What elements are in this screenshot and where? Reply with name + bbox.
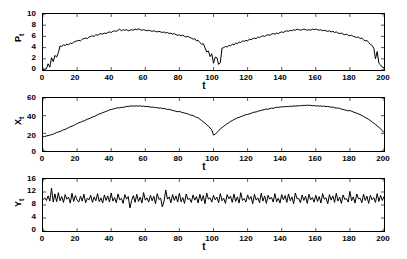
x-tick-xt-180: 180 — [340, 154, 358, 163]
y-tick-yt-16: 16 — [8, 174, 36, 183]
plot-area-xt — [42, 97, 385, 152]
x-tick-xt-60: 60 — [134, 154, 152, 163]
y-tick-pt-0: 0 — [8, 64, 36, 73]
y-tick-xt-60: 60 — [6, 93, 36, 102]
x-tick-pt-60: 60 — [134, 73, 152, 82]
y-tick-xt-20: 20 — [6, 131, 36, 140]
x-tick-xt-120: 120 — [237, 154, 255, 163]
plot-line-pt — [43, 14, 384, 70]
y-tick-pt-6: 6 — [8, 31, 36, 40]
plot-line-yt — [43, 179, 384, 231]
x-tick-pt-0: 0 — [33, 73, 51, 82]
x-axis-label-yt: t — [196, 241, 212, 252]
x-tick-xt-80: 80 — [169, 154, 187, 163]
y-tick-pt-8: 8 — [8, 20, 36, 29]
x-tick-xt-40: 40 — [100, 154, 118, 163]
x-tick-yt-180: 180 — [340, 234, 358, 243]
x-tick-yt-0: 0 — [33, 234, 51, 243]
x-tick-pt-20: 20 — [66, 73, 84, 82]
y-tick-xt-0: 0 — [6, 147, 36, 156]
y-tick-yt-4: 4 — [8, 212, 36, 221]
y-tick-yt-0: 0 — [8, 225, 36, 234]
x-tick-yt-40: 40 — [100, 234, 118, 243]
x-tick-pt-160: 160 — [306, 73, 324, 82]
y-tick-yt-12: 12 — [8, 186, 36, 195]
x-tick-pt-140: 140 — [271, 73, 289, 82]
plot-line-xt — [43, 98, 384, 151]
plot-area-yt — [42, 178, 385, 232]
x-tick-pt-120: 120 — [237, 73, 255, 82]
x-tick-yt-160: 160 — [306, 234, 324, 243]
y-tick-pt-10: 10 — [8, 9, 36, 18]
x-axis-label-xt: t — [196, 161, 212, 172]
x-tick-yt-200: 200 — [374, 234, 392, 243]
x-tick-yt-60: 60 — [134, 234, 152, 243]
y-tick-pt-2: 2 — [8, 53, 36, 62]
x-tick-xt-20: 20 — [66, 154, 84, 163]
x-axis-label-pt: t — [196, 80, 212, 91]
x-tick-pt-200: 200 — [374, 73, 392, 82]
y-tick-yt-8: 8 — [8, 199, 36, 208]
x-tick-yt-20: 20 — [66, 234, 84, 243]
x-tick-yt-140: 140 — [271, 234, 289, 243]
x-tick-yt-80: 80 — [169, 234, 187, 243]
x-tick-pt-40: 40 — [100, 73, 118, 82]
x-tick-yt-120: 120 — [237, 234, 255, 243]
x-tick-xt-0: 0 — [33, 154, 51, 163]
x-tick-xt-140: 140 — [271, 154, 289, 163]
plot-area-pt — [42, 13, 385, 71]
x-tick-pt-180: 180 — [340, 73, 358, 82]
y-tick-pt-4: 4 — [8, 42, 36, 51]
x-tick-xt-200: 200 — [374, 154, 392, 163]
x-tick-pt-80: 80 — [169, 73, 187, 82]
y-tick-xt-40: 40 — [6, 112, 36, 121]
x-tick-xt-160: 160 — [306, 154, 324, 163]
figure-canvas: Pt 10 8 6 4 2 0 0 20 40 60 80 100 120 14… — [0, 0, 407, 259]
